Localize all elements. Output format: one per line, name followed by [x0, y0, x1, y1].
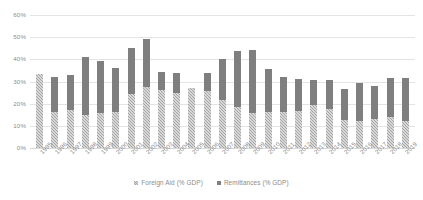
bar-group[interactable] [123, 15, 138, 148]
bar-stack[interactable] [341, 89, 348, 148]
bar-segment-remittances[interactable] [326, 80, 333, 109]
bar-group[interactable] [398, 15, 413, 148]
bar-stack[interactable] [219, 59, 226, 148]
bar-group[interactable] [215, 15, 230, 148]
bar-stack[interactable] [51, 77, 58, 148]
bar-group[interactable] [200, 15, 215, 148]
bar-segment-foreign-aid[interactable] [295, 111, 302, 148]
bar-stack[interactable] [82, 57, 89, 148]
bar-segment-remittances[interactable] [402, 78, 409, 121]
bar-stack[interactable] [173, 73, 180, 148]
bar-stack[interactable] [249, 50, 256, 148]
x-tick: 1995 [32, 149, 47, 179]
bar-stack[interactable] [402, 78, 409, 148]
bar-group[interactable] [93, 15, 108, 148]
bar-segment-foreign-aid[interactable] [387, 117, 394, 148]
bar-segment-foreign-aid[interactable] [280, 112, 287, 148]
bar-stack[interactable] [265, 69, 272, 148]
bar-segment-remittances[interactable] [97, 61, 104, 113]
bar-segment-remittances[interactable] [356, 83, 363, 121]
bar-stack[interactable] [234, 51, 241, 148]
bar-stack[interactable] [371, 86, 378, 148]
bar-segment-foreign-aid[interactable] [97, 113, 104, 148]
bar-stack[interactable] [188, 88, 195, 148]
bar-segment-remittances[interactable] [219, 59, 226, 100]
bar-stack[interactable] [143, 39, 150, 148]
bar-segment-foreign-aid[interactable] [173, 93, 180, 148]
bar-group[interactable] [108, 15, 123, 148]
bar-group[interactable] [139, 15, 154, 148]
bar-group[interactable] [245, 15, 260, 148]
x-tick: 2001 [123, 149, 138, 179]
bar-group[interactable] [352, 15, 367, 148]
bar-segment-foreign-aid[interactable] [128, 94, 135, 148]
bar-stack[interactable] [36, 74, 43, 148]
bar-segment-foreign-aid[interactable] [204, 91, 211, 148]
bar-segment-remittances[interactable] [234, 51, 241, 108]
bar-segment-foreign-aid[interactable] [67, 110, 74, 148]
bar-stack[interactable] [295, 79, 302, 148]
bar-segment-foreign-aid[interactable] [158, 90, 165, 148]
bar-segment-remittances[interactable] [67, 75, 74, 110]
bar-segment-remittances[interactable] [51, 77, 58, 112]
bar-segment-foreign-aid[interactable] [82, 115, 89, 148]
bar-stack[interactable] [280, 77, 287, 148]
bar-stack[interactable] [356, 83, 363, 148]
bar-group[interactable] [321, 15, 336, 148]
legend-item[interactable]: Remittances (% GDP) [217, 180, 289, 186]
bar-segment-foreign-aid[interactable] [112, 112, 119, 148]
bar-group[interactable] [382, 15, 397, 148]
bar-stack[interactable] [158, 72, 165, 148]
bar-segment-foreign-aid[interactable] [219, 100, 226, 148]
bar-stack[interactable] [67, 75, 74, 148]
bar-group[interactable] [367, 15, 382, 148]
y-tick-label: 50% [13, 34, 26, 40]
bar-group[interactable] [276, 15, 291, 148]
bar-segment-remittances[interactable] [204, 73, 211, 92]
bar-segment-remittances[interactable] [310, 80, 317, 104]
bar-group[interactable] [78, 15, 93, 148]
bar-segment-foreign-aid[interactable] [51, 112, 58, 148]
bar-segment-foreign-aid[interactable] [143, 87, 150, 148]
bar-stack[interactable] [387, 78, 394, 148]
bar-group[interactable] [32, 15, 47, 148]
bar-stack[interactable] [97, 61, 104, 148]
bar-group[interactable] [261, 15, 276, 148]
bar-group[interactable] [306, 15, 321, 148]
bar-group[interactable] [62, 15, 77, 148]
bar-segment-foreign-aid[interactable] [310, 105, 317, 148]
legend-item[interactable]: Foreign Aid (% GDP) [134, 180, 203, 186]
bar-segment-remittances[interactable] [128, 48, 135, 93]
bar-segment-remittances[interactable] [387, 78, 394, 117]
bar-segment-foreign-aid[interactable] [326, 109, 333, 148]
bar-segment-remittances[interactable] [173, 73, 180, 93]
bar-group[interactable] [47, 15, 62, 148]
bar-segment-remittances[interactable] [371, 86, 378, 119]
bar-stack[interactable] [112, 68, 119, 148]
bar-stack[interactable] [326, 80, 333, 148]
bar-segment-remittances[interactable] [82, 57, 89, 115]
bar-segment-remittances[interactable] [112, 68, 119, 112]
bar-segment-remittances[interactable] [295, 79, 302, 111]
bar-stack[interactable] [204, 73, 211, 148]
bar-segment-remittances[interactable] [158, 72, 165, 89]
bar-stack[interactable] [128, 48, 135, 148]
bar-segment-remittances[interactable] [341, 89, 348, 120]
bar-segment-foreign-aid[interactable] [356, 121, 363, 148]
bar-segment-remittances[interactable] [143, 39, 150, 87]
bar-group[interactable] [230, 15, 245, 148]
bar-group[interactable] [154, 15, 169, 148]
bar-group[interactable] [337, 15, 352, 148]
bar-group[interactable] [169, 15, 184, 148]
bar-segment-foreign-aid[interactable] [234, 107, 241, 148]
bar-segment-foreign-aid[interactable] [249, 113, 256, 148]
bar-segment-remittances[interactable] [280, 77, 287, 112]
bar-group[interactable] [291, 15, 306, 148]
bar-group[interactable] [184, 15, 199, 148]
bar-segment-foreign-aid[interactable] [36, 74, 43, 148]
bar-stack[interactable] [310, 80, 317, 148]
bar-segment-foreign-aid[interactable] [265, 112, 272, 148]
bar-segment-remittances[interactable] [265, 69, 272, 111]
bar-segment-foreign-aid[interactable] [188, 88, 195, 148]
bar-segment-remittances[interactable] [249, 50, 256, 112]
